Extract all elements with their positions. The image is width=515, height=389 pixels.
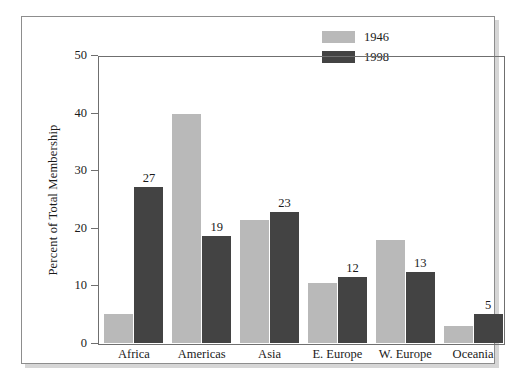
bar-1998-e-europe[interactable]: 12 <box>338 277 367 343</box>
legend-label-1946: 1946 <box>364 30 389 45</box>
bar-group: 13W. Europe <box>376 55 435 343</box>
bar-value-label: 23 <box>278 197 291 210</box>
y-axis-title: Percent of Total Membership <box>46 56 64 344</box>
y-tick: 40 <box>91 113 98 114</box>
bar-group: 5Oceania <box>444 55 503 343</box>
bar-1998-americas[interactable]: 19 <box>202 236 231 343</box>
bar-1946-africa[interactable] <box>104 314 133 343</box>
bar-value-label: 12 <box>346 262 359 275</box>
x-axis-spine <box>98 344 505 345</box>
bar-group: 23Asia <box>240 55 299 343</box>
y-tick-label: 20 <box>75 220 88 235</box>
plot-area: 01020304050 27Africa19Americas23Asia12E.… <box>98 56 505 344</box>
bar-value-label: 13 <box>414 257 427 270</box>
y-tick-label: 30 <box>75 163 88 178</box>
y-tick-label: 50 <box>75 48 88 63</box>
bar-1946-americas[interactable] <box>172 114 201 343</box>
y-tick-label: 0 <box>81 336 87 351</box>
bar-value-label: 5 <box>485 299 491 312</box>
x-tick-label: Asia <box>258 347 281 362</box>
bar-1998-oceania[interactable]: 5 <box>474 314 503 343</box>
legend-swatch-1946-icon <box>322 31 355 43</box>
y-tick: 30 <box>91 170 98 171</box>
bar-group: 27Africa <box>104 55 163 343</box>
bar-1946-e-europe[interactable] <box>308 283 337 343</box>
y-tick-label: 40 <box>75 105 88 120</box>
bar-1946-asia[interactable] <box>240 220 269 343</box>
x-tick-label: E. Europe <box>312 347 362 362</box>
bar-1998-asia[interactable]: 23 <box>270 212 299 343</box>
bar-group: 19Americas <box>172 55 231 343</box>
bar-group: 12E. Europe <box>308 55 367 343</box>
figure-frame: Percent of Total Membership 1946 1998 01… <box>21 16 495 364</box>
y-tick-label: 10 <box>75 278 88 293</box>
x-tick-label: Africa <box>118 347 150 362</box>
bar-value-label: 27 <box>143 172 156 185</box>
bar-1946-oceania[interactable] <box>444 326 473 343</box>
x-tick-label: Americas <box>178 347 226 362</box>
y-tick: 10 <box>91 285 98 286</box>
bar-1946-w-europe[interactable] <box>376 240 405 343</box>
x-tick-label: W. Europe <box>379 347 432 362</box>
x-tick-label: Oceania <box>453 347 494 362</box>
legend-item-1946: 1946 <box>322 29 418 45</box>
figure: Percent of Total Membership 1946 1998 01… <box>0 0 515 389</box>
axis-right-spine <box>504 56 505 345</box>
y-tick: 50 <box>91 55 98 56</box>
bar-1998-w-europe[interactable]: 13 <box>406 272 435 343</box>
bar-1998-africa[interactable]: 27 <box>134 187 163 343</box>
y-axis-spine <box>98 56 99 345</box>
bar-value-label: 19 <box>211 221 224 234</box>
y-tick: 20 <box>91 228 98 229</box>
y-tick: 0 <box>91 343 98 344</box>
